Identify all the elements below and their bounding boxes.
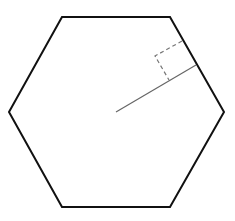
diagram-canvas (0, 0, 235, 221)
hexagon-diagram (0, 0, 235, 221)
apothem-line (116, 65, 196, 112)
right-angle-marker (155, 41, 182, 80)
